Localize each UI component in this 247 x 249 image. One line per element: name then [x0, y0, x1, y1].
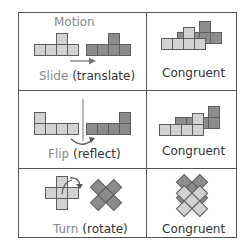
turn-word: Turn [53, 222, 78, 236]
row-divider-1 [19, 90, 236, 91]
turn-congruent-overlay [172, 172, 212, 220]
turn-label: Turn (rotate) [53, 222, 128, 236]
reflection-line [82, 99, 84, 141]
slide-arrow-icon [70, 57, 96, 65]
slide-label: Slide (translate) [39, 69, 135, 83]
slide-word: Slide [39, 69, 68, 83]
column-divider [146, 13, 147, 237]
row-divider-2 [19, 168, 236, 169]
turn-rotated-shape [87, 176, 125, 214]
turn-arrow-icon [70, 176, 84, 190]
turn-result: Congruent [162, 222, 225, 236]
flip-label: Flip (reflect) [48, 147, 121, 161]
flip-original-shape [34, 112, 82, 136]
flip-result: Congruent [162, 144, 225, 158]
flip-congruent-overlay [159, 101, 225, 137]
flip-word: Flip [48, 147, 69, 161]
slide-original-shape [34, 33, 82, 57]
slide-moved-shape [86, 33, 134, 57]
slide-term: (translate) [72, 69, 135, 83]
flip-reflected-shape [86, 112, 134, 136]
slide-result: Congruent [162, 66, 225, 80]
flip-term: (reflect) [73, 147, 121, 161]
motion-header: Motion [54, 15, 95, 29]
slide-congruent-overlay [161, 21, 223, 57]
turn-term: (rotate) [82, 222, 128, 236]
